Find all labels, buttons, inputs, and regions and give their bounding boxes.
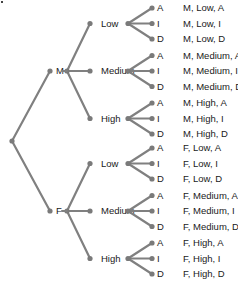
node-leaf xyxy=(149,224,154,229)
edge-leaf xyxy=(128,8,152,24)
level-label: Low xyxy=(101,18,119,29)
outcome-label: F, High, A xyxy=(183,237,224,248)
node-high xyxy=(87,116,92,121)
node-leaf xyxy=(149,271,154,276)
edge-root-F xyxy=(12,141,50,211)
outcome-label: F, High, D xyxy=(183,268,225,279)
node-fork xyxy=(125,161,130,166)
edge-M-high xyxy=(67,71,90,119)
node-leaf xyxy=(149,116,154,121)
edge-leaf xyxy=(128,56,152,72)
node-leaf xyxy=(149,21,154,26)
outcome-label: M, Medium, D xyxy=(183,81,238,92)
edge-leaf xyxy=(128,148,152,164)
outcome-label: F, Low, I xyxy=(183,158,218,169)
response-label: A xyxy=(157,142,164,153)
outcome-label: M, Medium, A xyxy=(183,50,238,61)
response-label: I xyxy=(157,253,160,264)
outcome-label: M, High, I xyxy=(183,113,224,124)
node-leaf xyxy=(149,100,154,105)
node-low xyxy=(87,161,92,166)
response-label: D xyxy=(157,128,164,139)
node-leaf xyxy=(149,176,154,181)
outcome-label: M, Low, D xyxy=(183,33,225,44)
node-leaf xyxy=(149,84,154,89)
level-label: High xyxy=(101,253,121,264)
edge-leaf xyxy=(128,259,152,275)
outcome-label: F, Medium, A xyxy=(183,190,238,201)
outcome-label: M, Medium, I xyxy=(183,65,238,76)
response-label: A xyxy=(157,97,164,108)
level-label: Low xyxy=(101,158,119,169)
response-label: D xyxy=(157,268,164,279)
tree-diagram: MLowAM, Low, AIM, Low, IDM, Low, DMedium… xyxy=(0,0,238,282)
node-leaf xyxy=(149,36,154,41)
node-root xyxy=(9,138,14,143)
edge-leaf xyxy=(128,24,152,40)
response-label: I xyxy=(157,113,160,124)
response-label: A xyxy=(157,50,164,61)
response-label: A xyxy=(157,237,164,248)
node-leaf xyxy=(149,256,154,261)
node-leaf xyxy=(149,5,154,10)
edge-M-low xyxy=(67,24,90,72)
response-label: I xyxy=(157,65,160,76)
edge-leaf xyxy=(128,71,152,87)
response-label: I xyxy=(157,18,160,29)
node-M xyxy=(47,68,52,73)
edge-leaf xyxy=(128,119,152,135)
response-label: I xyxy=(157,205,160,216)
response-label: D xyxy=(157,81,164,92)
node-leaf xyxy=(149,53,154,58)
node-high xyxy=(87,256,92,261)
node-fork xyxy=(125,256,130,261)
response-label: D xyxy=(157,221,164,232)
node-leaf xyxy=(149,240,154,245)
outcome-label: F, Medium, I xyxy=(183,205,235,216)
edge-leaf xyxy=(128,164,152,180)
node-medium xyxy=(87,68,92,73)
edge-leaf xyxy=(128,196,152,212)
edge-root-M xyxy=(12,71,50,141)
response-label: I xyxy=(157,158,160,169)
edge-leaf xyxy=(128,103,152,119)
response-label: A xyxy=(157,2,164,13)
outcome-label: F, Low, A xyxy=(183,142,222,153)
outcome-label: F, Medium, D xyxy=(183,221,238,232)
level-label: High xyxy=(101,113,121,124)
outcome-label: M, High, A xyxy=(183,97,227,108)
node-leaf xyxy=(149,145,154,150)
edge-F-low xyxy=(67,164,90,212)
outcome-label: F, Low, D xyxy=(183,173,222,184)
node-low xyxy=(87,21,92,26)
outcome-label: F, High, I xyxy=(183,253,221,264)
response-label: D xyxy=(157,173,164,184)
node-fork xyxy=(125,116,130,121)
edge-leaf xyxy=(128,243,152,259)
edge-F-high xyxy=(67,211,90,259)
outcome-label: M, Low, I xyxy=(183,18,221,29)
outcome-label: M, Low, A xyxy=(183,2,225,13)
node-leaf xyxy=(149,193,154,198)
node-F xyxy=(47,208,52,213)
node-leaf xyxy=(149,208,154,213)
response-label: A xyxy=(157,190,164,201)
outcome-label: M, High, D xyxy=(183,128,228,139)
node-medium xyxy=(87,208,92,213)
node-fork xyxy=(125,21,130,26)
response-label: D xyxy=(157,33,164,44)
node-leaf xyxy=(149,131,154,136)
edge-leaf xyxy=(128,211,152,227)
node-leaf xyxy=(149,161,154,166)
node-leaf xyxy=(149,68,154,73)
